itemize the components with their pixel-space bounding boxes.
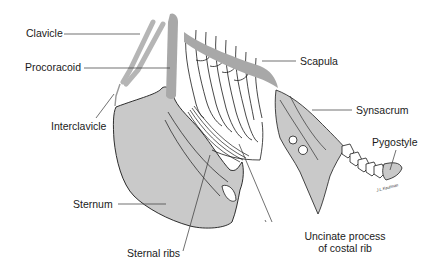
label-procoracoid: Procoracoid <box>25 61 81 73</box>
label-interclavicle: Interclavicle <box>51 120 106 132</box>
synsacrum-shape <box>275 90 345 214</box>
label-uncinate-process: Uncinate process of costal rib <box>275 230 415 254</box>
label-pygostyle: Pygostyle <box>372 136 418 148</box>
pygostyle-shape <box>383 163 402 180</box>
label-uncinate-line1: Uncinate process <box>275 230 415 242</box>
caudal-vertebrae <box>342 144 386 178</box>
label-sternal-ribs: Sternal ribs <box>127 247 180 259</box>
label-synsacrum: Synsacrum <box>356 104 409 116</box>
label-sternum: Sternum <box>73 198 113 210</box>
label-uncinate-line2: of costal rib <box>275 242 415 254</box>
label-clavicle: Clavicle <box>26 27 63 39</box>
label-scapula: Scapula <box>300 55 338 67</box>
sternum-shape <box>113 87 243 228</box>
interclavicle-shape <box>115 84 120 106</box>
scapula-shape <box>184 32 278 88</box>
procoracoid-shape <box>166 13 178 99</box>
